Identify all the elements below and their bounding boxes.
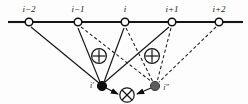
arrow-i-double-prime-to-times — [137, 88, 151, 94]
node-i-minus-2[interactable] — [25, 18, 33, 26]
arrow-i-prime-to-times — [106, 88, 118, 94]
node-i-prime[interactable] — [97, 81, 106, 90]
plus-circle-right-icon — [145, 49, 160, 64]
label-node-i-plus-1: i+1 — [165, 4, 178, 14]
label-node-i-minus-1: i−1 — [71, 4, 84, 14]
times-circle-icon — [120, 88, 134, 102]
edge-dashed-i-plus-2 — [159, 27, 216, 82]
node-i-plus-1[interactable] — [168, 18, 176, 26]
node-i-plus-2[interactable] — [215, 18, 223, 26]
node-i[interactable] — [121, 18, 129, 26]
label-node-i-plus-2: i+2 — [212, 4, 226, 14]
node-i-double-prime[interactable] — [150, 81, 159, 90]
top-node-label-group: i−2 i−1 i i+1 i+2 — [22, 4, 226, 14]
diagram-canvas: i−2 i−1 i i+1 i+2 i′ i″ — [0, 0, 248, 104]
label-node-i-double-prime: i″ — [163, 83, 169, 92]
label-node-i-minus-2: i−2 — [22, 4, 36, 14]
diagram-svg: i−2 i−1 i i+1 i+2 i′ i″ — [0, 0, 248, 104]
plus-circle-left-icon — [92, 49, 107, 64]
label-node-i: i — [124, 4, 127, 14]
label-node-i-prime: i′ — [90, 81, 94, 90]
node-i-minus-1[interactable] — [74, 18, 82, 26]
